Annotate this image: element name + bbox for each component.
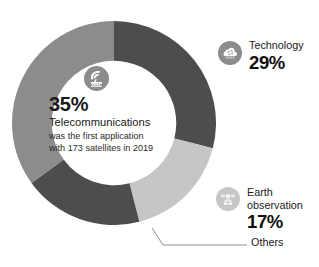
callout-technology-percent: 29% xyxy=(249,53,304,73)
center-title: Telecommunications xyxy=(49,116,184,130)
center-callout: 35% Telecommunications was the first app… xyxy=(48,66,184,155)
callout-others-label: Others xyxy=(251,237,283,249)
callout-earth-observation-label-line-1: Earth xyxy=(247,186,303,199)
callout-technology-text: Technology 29% xyxy=(249,39,304,72)
callout-earth-observation-text: Earth observation 17% xyxy=(247,186,303,232)
callout-technology-label: Technology xyxy=(249,39,304,52)
center-subtitle-line-1: was the first application xyxy=(49,131,184,142)
center-subtitle-line-2: with 173 satellites in 2019 xyxy=(49,143,184,154)
callout-earth-observation-label-line-2: observation xyxy=(247,199,303,212)
callout-earth-observation-percent: 17% xyxy=(247,212,303,232)
technology-chip-cloud-icon xyxy=(218,41,242,65)
satellite-applications-donut-infographic: 35% Telecommunications was the first app… xyxy=(0,0,319,267)
others-leader-line xyxy=(144,224,249,250)
satellite-dish-icon xyxy=(84,66,109,91)
callout-technology[interactable]: Technology 29% xyxy=(218,39,304,72)
earth-observation-satellite-icon xyxy=(216,187,240,211)
center-percent: 35% xyxy=(49,94,184,115)
